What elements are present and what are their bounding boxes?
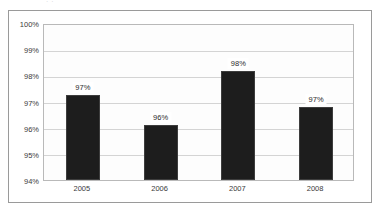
bar-group: 96% bbox=[144, 23, 178, 180]
bar-group: 97% bbox=[299, 23, 333, 180]
clipped-header-text: . . bbox=[0, 0, 382, 9]
x-axis-tick-label-2008: 2008 bbox=[307, 184, 324, 193]
y-axis-tick-label: 97% bbox=[24, 98, 39, 107]
bar-value-label-2005: 97% bbox=[72, 82, 93, 93]
bar-2007[interactable] bbox=[221, 71, 255, 180]
y-axis-tick-label: 96% bbox=[24, 124, 39, 133]
y-axis: 94%95%96%97%98%99%100% bbox=[9, 11, 43, 202]
bar-value-label-2008: 97% bbox=[306, 94, 327, 105]
clipped-header-text-label: . . bbox=[46, 0, 54, 4]
plot-area: 97%96%98%97% bbox=[43, 24, 354, 181]
x-axis-tick-label-2006: 2006 bbox=[151, 184, 168, 193]
chart-frame: 94%95%96%97%98%99%100% 97%96%98%97% 2005… bbox=[8, 10, 372, 203]
bar-value-label-2006: 96% bbox=[150, 112, 171, 123]
bar-group: 97% bbox=[66, 23, 100, 180]
bar-2006[interactable] bbox=[144, 125, 178, 180]
x-axis-tick-label-2005: 2005 bbox=[74, 184, 91, 193]
bar-group: 98% bbox=[221, 23, 255, 180]
bar-2005[interactable] bbox=[66, 95, 100, 180]
x-axis: 2005200620072008 bbox=[43, 181, 354, 197]
x-axis-tick-label-2007: 2007 bbox=[229, 184, 246, 193]
y-axis-tick-label: 99% bbox=[24, 46, 39, 55]
bar-2008[interactable] bbox=[299, 107, 333, 180]
y-axis-tick-label: 98% bbox=[24, 72, 39, 81]
y-axis-tick-label: 95% bbox=[24, 150, 39, 159]
y-axis-tick-label: 94% bbox=[24, 177, 39, 186]
bar-value-label-2007: 98% bbox=[228, 58, 249, 69]
y-axis-tick-label: 100% bbox=[20, 20, 39, 29]
